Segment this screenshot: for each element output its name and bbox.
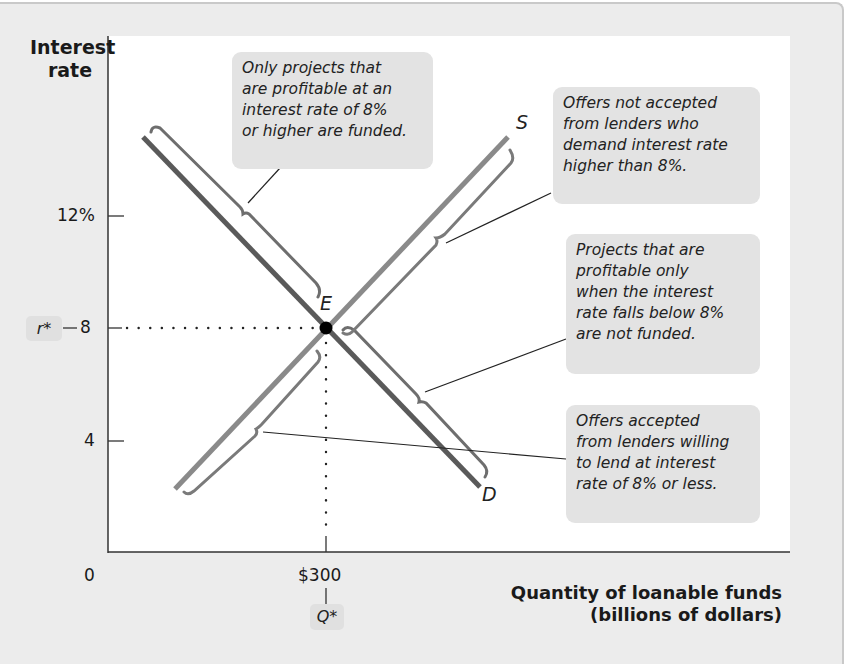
- demand-curve: [143, 137, 480, 487]
- callout-line: Offers not accepted: [563, 93, 750, 114]
- x-axis-title-line1: Quantity of loanable funds: [511, 582, 782, 604]
- callout-line: are not funded.: [576, 324, 750, 345]
- callout-line: Projects that are: [576, 240, 750, 261]
- leader-funded-projects: [248, 168, 280, 203]
- callout-offers-not-accepted: Offers not accepted from lenders who dem…: [553, 87, 760, 204]
- x-axis-title: Quantity of loanable funds (billions of …: [511, 582, 782, 626]
- supply-label: S: [516, 111, 528, 133]
- r-star-badge: r*: [26, 316, 62, 341]
- callout-line: rate of 8% or less.: [576, 474, 750, 495]
- y-tick-label-8: 8: [80, 317, 91, 337]
- callout-line: to lend at interest: [576, 453, 750, 474]
- callout-funded-projects: Only projects that are profitable at an …: [232, 52, 433, 169]
- callout-line: from lenders who: [563, 114, 750, 135]
- q-star-badge: Q*: [310, 604, 344, 630]
- bracket-supply-lower: [184, 351, 320, 494]
- y-axis-title-line2: rate: [30, 59, 110, 82]
- x-tick-label-300: $300: [298, 565, 341, 585]
- leader-projects-not-funded: [425, 339, 566, 392]
- leader-offers-accepted: [263, 432, 566, 459]
- equilibrium-label: E: [320, 292, 332, 314]
- y-tick-label-4: 4: [84, 430, 95, 450]
- callout-projects-not-funded: Projects that are profitable only when t…: [566, 234, 760, 374]
- callout-line: rate falls below 8%: [576, 303, 750, 324]
- callout-line: higher than 8%.: [563, 156, 750, 177]
- y-axis-title: Interest rate: [30, 36, 110, 82]
- callout-line: are profitable at an: [242, 79, 423, 100]
- demand-label: D: [482, 483, 497, 505]
- callout-line: interest rate of 8%: [242, 100, 423, 121]
- bracket-demand-lower: [343, 328, 487, 478]
- origin-label: 0: [84, 565, 95, 585]
- callout-line: or higher are funded.: [242, 121, 423, 142]
- bracket-supply-upper: [343, 150, 513, 334]
- x-axis-title-line2: (billions of dollars): [511, 604, 782, 626]
- callout-line: demand interest rate: [563, 135, 750, 156]
- callout-line: Offers accepted: [576, 411, 750, 432]
- callout-line: when the interest: [576, 282, 750, 303]
- callout-line: from lenders willing: [576, 432, 750, 453]
- callout-line: Only projects that: [242, 58, 423, 79]
- y-axis-title-line1: Interest: [30, 36, 110, 59]
- y-tick-label-12: 12%: [57, 205, 95, 225]
- callout-offers-accepted: Offers accepted from lenders willing to …: [566, 405, 760, 523]
- equilibrium-point: [320, 322, 333, 335]
- callout-line: profitable only: [576, 261, 750, 282]
